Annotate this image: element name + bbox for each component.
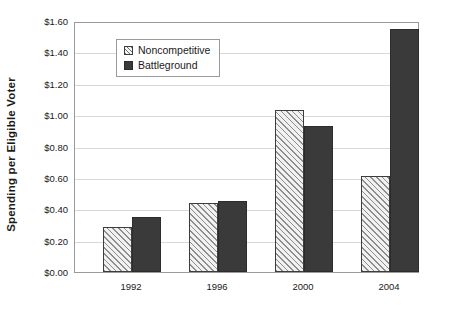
bar-battleground-2004 (390, 29, 419, 272)
legend-label-noncompetitive: Noncompetitive (138, 44, 210, 56)
bar-noncompetitive-1992 (103, 227, 132, 273)
legend-swatch-solid-icon (124, 61, 133, 70)
x-tick-label-1992: 1992 (101, 281, 161, 292)
y-tick-label: $0.80 (22, 143, 68, 153)
legend-item-battleground: Battleground (124, 59, 210, 71)
x-tick-label-2004: 2004 (359, 281, 419, 292)
x-tick-label-1996: 1996 (187, 281, 247, 292)
gridline (75, 148, 418, 149)
y-tick-label: $1.20 (22, 80, 68, 90)
y-tick-label: $0.00 (22, 268, 68, 278)
bar-battleground-2000 (304, 126, 333, 272)
legend-label-battleground: Battleground (138, 59, 198, 71)
bar-noncompetitive-1996 (189, 203, 218, 272)
bar-battleground-1992 (132, 217, 161, 272)
gridline (75, 116, 418, 117)
bar-chart: Spending per Eligible Voter $1.60 $1.40 … (0, 0, 449, 309)
y-tick-label: $0.40 (22, 205, 68, 215)
y-tick-label: $1.40 (22, 48, 68, 58)
y-axis-title: Spending per Eligible Voter (0, 0, 22, 309)
chart-legend: Noncompetitive Battleground (116, 39, 220, 77)
bar-noncompetitive-2004 (361, 176, 390, 272)
y-tick-label: $0.60 (22, 174, 68, 184)
bar-noncompetitive-2000 (275, 110, 304, 272)
y-tick-label: $0.20 (22, 237, 68, 247)
x-tick-label-2000: 2000 (273, 281, 333, 292)
y-tick-label: $1.60 (22, 17, 68, 27)
gridline (75, 85, 418, 86)
y-tick-label: $1.00 (22, 111, 68, 121)
bar-battleground-1996 (218, 201, 247, 272)
legend-swatch-hatched-icon (124, 46, 133, 55)
legend-item-noncompetitive: Noncompetitive (124, 44, 210, 56)
